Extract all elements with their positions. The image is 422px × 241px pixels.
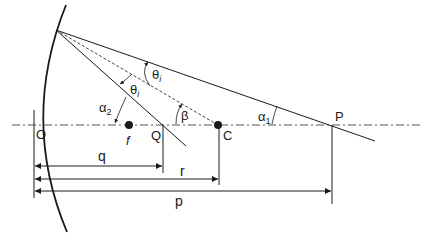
label-beta: β xyxy=(181,108,188,123)
alpha1-arc xyxy=(272,106,277,124)
label-theta-i-upper: θi xyxy=(152,67,162,84)
mirror-diagram: O f Q C P q r p θi θi α2 β α1 xyxy=(0,0,422,241)
alpha2-arc xyxy=(115,97,126,123)
focal-point-dot xyxy=(125,121,133,129)
label-r: r xyxy=(180,163,185,179)
mirror-curve xyxy=(43,5,67,232)
theta-i-upper-arc xyxy=(144,62,150,86)
label-q: q xyxy=(98,148,106,164)
label-C: C xyxy=(223,128,232,143)
label-O: O xyxy=(36,127,46,142)
label-theta-i-lower: θi xyxy=(130,82,140,99)
reflected-ray xyxy=(56,30,186,146)
center-point-dot xyxy=(214,121,222,129)
label-Q: Q xyxy=(151,128,161,143)
label-f: f xyxy=(126,133,131,148)
label-alpha2: α2 xyxy=(99,100,112,117)
label-P: P xyxy=(335,109,344,124)
label-p: p xyxy=(175,193,183,209)
label-alpha1: α1 xyxy=(258,109,271,126)
